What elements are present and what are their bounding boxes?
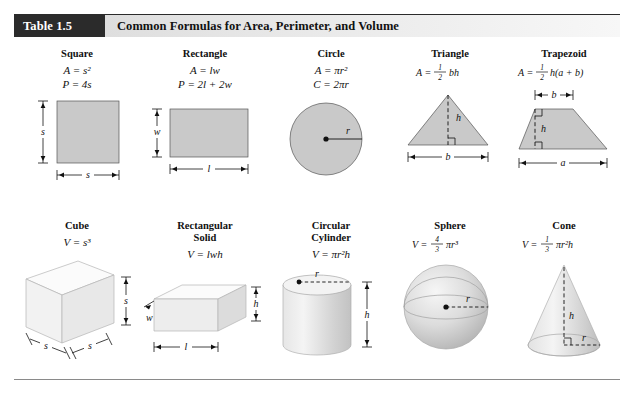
diagram-cube: s s s (14, 255, 140, 359)
formula-square-area: A = s² (63, 63, 90, 77)
label-rectangular-solid-height: h (254, 298, 259, 309)
shape-name-cone: Cone (552, 220, 575, 232)
figure-cell-cube: Cube V = s³ s s (14, 214, 140, 378)
shape-name-rectangular-solid: Rectangular Solid (177, 220, 232, 244)
diagram-sphere: r (392, 259, 508, 363)
fraction-numerator-sphere: 4 (435, 235, 439, 244)
table-bottom-rule (14, 379, 620, 380)
figure-cell-rectangle: Rectangle A = lw P = 2l + 2w w l (140, 42, 270, 194)
label-trapezoid-bottom: a (561, 157, 566, 168)
label-sphere-radius: r (466, 293, 470, 304)
diagram-cone: h r (508, 259, 620, 367)
label-cone-radius: r (582, 332, 586, 343)
shape-name-cube: Cube (65, 220, 89, 232)
label-cube-height: s (124, 295, 128, 306)
label-square-side-vertical: s (41, 126, 45, 137)
fraction-denominator-triangle: 2 (438, 73, 442, 82)
label-cylinder-height: h (365, 309, 370, 320)
label-cylinder-radius: r (315, 268, 319, 279)
formula-cube-volume: V = s³ (63, 235, 90, 249)
plane-figures-row: Square A = s² P = 4s s s (14, 42, 620, 194)
formula-trapezoid-area: A = 1 2 h(a + b) (516, 63, 612, 81)
label-cube-width: s (44, 340, 48, 351)
diagram-circular-cylinder: r h (270, 267, 392, 371)
svg-text:V =: V = (412, 239, 427, 250)
fraction-numerator-triangle: 1 (438, 63, 442, 72)
figure-cell-circle: Circle A = πr² C = 2πr r (270, 42, 392, 194)
formula-rectangular-solid-volume: V = lwh (187, 247, 222, 261)
fraction-rest-sphere: πr³ (446, 239, 459, 250)
label-trapezoid-height: h (541, 123, 546, 134)
figure-cell-triangle: Triangle A = 1 2 bh h b (392, 42, 508, 194)
label-square-side-horizontal: s (86, 169, 90, 180)
shape-name-trapezoid: Trapezoid (541, 48, 586, 60)
label-rectangle-height: w (154, 126, 161, 137)
solid-figures-row: Cube V = s³ s s (14, 214, 620, 378)
diagram-triangle: h b (392, 87, 508, 175)
formula-rectangle-perimeter: P = 2l + 2w (178, 77, 232, 91)
label-rectangular-solid-length: l (185, 341, 188, 352)
figure-cell-circular-cylinder: Circular Cylinder V = πr²h r (270, 214, 392, 378)
table-header-bar: Table 1.5 Common Formulas for Area, Peri… (14, 14, 620, 37)
fraction-rest-triangle: bh (449, 67, 459, 78)
figure-cell-cone: Cone V = 1 3 πr²h (508, 214, 620, 378)
svg-text:A =: A = (415, 67, 431, 78)
formula-circle-area: A = πr² (315, 63, 348, 77)
fraction-rest-trapezoid: h(a + b) (550, 67, 584, 79)
figure-cell-rectangular-solid: Rectangular Solid V = lwh h w (140, 214, 270, 378)
formula-sphere-volume: V = 4 3 πr³ (410, 235, 490, 253)
table-number-badge: Table 1.5 (14, 15, 105, 37)
shape-name-triangle: Triangle (431, 48, 469, 60)
svg-text:A =: A = (517, 67, 533, 78)
label-rectangular-solid-width: w (146, 312, 153, 323)
diagram-circle: r (270, 97, 392, 185)
diagram-square: s s (14, 97, 140, 185)
figure-cell-square: Square A = s² P = 4s s s (14, 42, 140, 194)
diagram-rectangular-solid: h w l (140, 267, 270, 371)
fraction-denominator-sphere: 3 (434, 245, 439, 254)
fraction-rest-cone: πr²h (556, 239, 573, 250)
diagram-trapezoid: b h a (508, 87, 620, 179)
diagram-rectangle: w l (140, 97, 270, 185)
fraction-numerator-cone: 1 (545, 235, 549, 244)
label-rectangle-width: l (208, 163, 211, 174)
formula-rectangle-area: A = lw (190, 63, 220, 77)
formula-cylinder-volume: V = πr²h (312, 247, 350, 261)
fraction-numerator-trapezoid: 1 (540, 63, 544, 72)
formula-circle-circumference: C = 2πr (313, 77, 349, 91)
formula-triangle-area: A = 1 2 bh (414, 63, 486, 81)
label-cube-depth: s (88, 340, 92, 351)
shape-name-sphere: Sphere (434, 220, 465, 232)
figure-cell-sphere: Sphere V = 4 3 πr³ (392, 214, 508, 378)
table-title: Common Formulas for Area, Perimeter, and… (105, 15, 620, 37)
label-triangle-base: b (446, 151, 451, 162)
formula-cone-volume: V = 1 3 πr²h (520, 235, 608, 253)
shape-name-rectangle: Rectangle (183, 48, 227, 60)
shape-name-circular-cylinder: Circular Cylinder (311, 220, 351, 244)
svg-text:V =: V = (522, 239, 537, 250)
fraction-denominator-cone: 3 (544, 245, 549, 254)
label-trapezoid-top: b (552, 89, 557, 100)
label-triangle-height: h (456, 112, 461, 123)
formula-square-perimeter: P = 4s (62, 77, 91, 91)
shape-name-square: Square (61, 48, 93, 60)
label-circle-radius: r (346, 125, 350, 136)
label-cone-height: h (569, 310, 574, 321)
figure-cell-trapezoid: Trapezoid A = 1 2 h(a + b) b (508, 42, 620, 194)
fraction-denominator-trapezoid: 2 (540, 73, 544, 82)
shape-name-circle: Circle (317, 48, 344, 60)
